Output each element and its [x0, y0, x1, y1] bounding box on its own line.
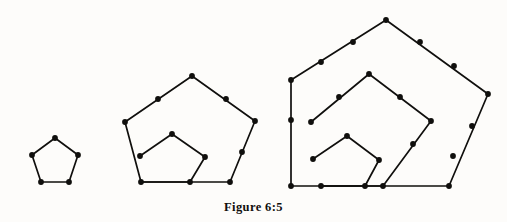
pentagon-dot — [469, 123, 475, 129]
pentagon-dot — [288, 183, 294, 189]
pentagon-dot — [308, 119, 314, 125]
figure-page: Figure 6:5 — [0, 0, 507, 222]
pentagon-dot — [189, 73, 195, 79]
pentagon-dot — [417, 39, 423, 45]
pentagon-dot — [29, 152, 35, 158]
pentagon-dot — [446, 183, 452, 189]
pentagon-dot — [52, 135, 58, 141]
panel-3-pentagon-group — [288, 17, 491, 189]
pentagon-dot — [336, 94, 342, 100]
pentagon-dot — [288, 117, 294, 123]
pentagon-dot — [410, 141, 416, 147]
pentagon-layer-3-outer-left — [291, 20, 386, 80]
pentagon-dot — [66, 179, 72, 185]
pentagon-dot — [155, 96, 161, 102]
pentagon-dot — [38, 179, 44, 185]
pentagon-dot — [137, 153, 143, 159]
pentagon-dot — [318, 183, 324, 189]
pentagonal-numbers-diagram — [0, 0, 507, 222]
pentagon-dot — [383, 17, 389, 23]
figure-caption: Figure 6:5 — [0, 200, 507, 215]
panel-2-pentagon-group — [122, 73, 258, 185]
pentagon-dot — [122, 119, 128, 125]
pentagon-dot — [485, 91, 491, 97]
pentagon-dot — [450, 153, 456, 159]
pentagon-layer-2-outer — [125, 76, 255, 182]
pentagon-dot — [366, 71, 372, 77]
pentagon-layer-1-inner — [313, 136, 379, 186]
pentagon-layer-1 — [32, 138, 78, 182]
pentagon-dot — [310, 156, 316, 162]
pentagon-layer-3-outer — [291, 20, 488, 186]
pentagon-dot — [187, 179, 193, 185]
pentagon-dot — [239, 149, 245, 155]
pentagon-dot — [169, 131, 175, 137]
pentagon-dot — [362, 183, 368, 189]
pentagon-layer-2-middle — [311, 74, 431, 186]
pentagon-dot — [288, 77, 294, 83]
panel-1-pentagon-group — [29, 135, 81, 185]
pentagon-dot — [252, 118, 258, 124]
pentagon-dot — [227, 179, 233, 185]
pentagon-dot — [223, 96, 229, 102]
pentagon-layer-1-inner — [140, 134, 205, 182]
pentagon-dot — [138, 179, 144, 185]
pentagon-dot — [350, 39, 356, 45]
pentagon-dot — [202, 154, 208, 160]
pentagon-dot — [376, 157, 382, 163]
pentagon-dot — [344, 133, 350, 139]
pentagon-dot — [451, 63, 457, 69]
pentagon-dot — [397, 94, 403, 100]
pentagon-dot — [380, 183, 386, 189]
pentagon-dot — [428, 118, 434, 124]
pentagon-dot — [75, 152, 81, 158]
pentagon-dot — [318, 59, 324, 65]
